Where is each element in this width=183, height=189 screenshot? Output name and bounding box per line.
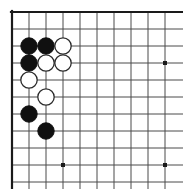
white-stone bbox=[55, 55, 71, 71]
white-stone bbox=[21, 72, 37, 88]
white-stone bbox=[38, 55, 54, 71]
star-point bbox=[61, 163, 65, 167]
go-board-diagram bbox=[0, 0, 183, 189]
black-stone bbox=[21, 106, 37, 122]
black-stone bbox=[21, 55, 37, 71]
black-stone bbox=[38, 38, 54, 54]
white-stone bbox=[55, 38, 71, 54]
go-board-canvas bbox=[0, 0, 183, 189]
star-point bbox=[163, 61, 167, 65]
white-stone bbox=[38, 89, 54, 105]
star-point bbox=[163, 163, 167, 167]
black-stone bbox=[21, 38, 37, 54]
board-background bbox=[0, 0, 183, 189]
black-stone bbox=[38, 123, 54, 139]
